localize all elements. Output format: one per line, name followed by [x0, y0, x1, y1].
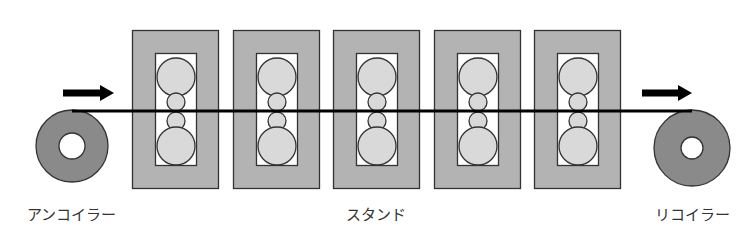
upper-work-roll [167, 93, 185, 111]
uncoiler-label: アンコイラー [27, 203, 116, 224]
upper-backup-roll [157, 58, 195, 96]
lower-backup-roll [358, 127, 396, 165]
uncoiler-coil-core [59, 133, 85, 159]
upper-work-roll [469, 93, 487, 111]
upper-backup-roll [258, 58, 296, 96]
uncoiler-coil [36, 110, 108, 182]
recoiler-coil-core [681, 137, 703, 159]
lower-backup-roll [459, 127, 497, 165]
recoiler-label: リコイラー [655, 203, 730, 224]
entry-direction-arrow-icon [63, 85, 114, 101]
upper-backup-roll [459, 58, 497, 96]
rolling-mill-diagram [0, 0, 756, 236]
stand-label: スタンド [346, 203, 406, 224]
upper-work-roll [368, 93, 386, 111]
lower-backup-roll [157, 127, 195, 165]
upper-backup-roll [358, 58, 396, 96]
lower-backup-roll [559, 127, 597, 165]
upper-backup-roll [559, 58, 597, 96]
lower-backup-roll [258, 127, 296, 165]
upper-work-roll [569, 93, 587, 111]
recoiler-coil [654, 110, 730, 186]
upper-work-roll [268, 93, 286, 111]
exit-direction-arrow-icon [642, 85, 692, 101]
